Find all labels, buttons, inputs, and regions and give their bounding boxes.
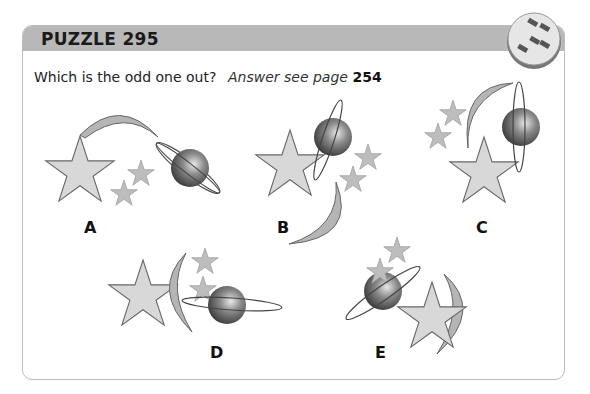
option-label-d[interactable]: D bbox=[210, 343, 223, 362]
option-b-figure[interactable] bbox=[256, 98, 382, 244]
puzzle-blocks-icon bbox=[507, 13, 561, 69]
option-d-figure[interactable] bbox=[109, 248, 283, 332]
option-e-figure[interactable] bbox=[342, 237, 466, 354]
option-a-figure[interactable] bbox=[46, 115, 225, 205]
option-c-figure[interactable] bbox=[425, 82, 540, 202]
option-label-a[interactable]: A bbox=[84, 218, 96, 237]
puzzle-art bbox=[0, 0, 590, 394]
option-label-e[interactable]: E bbox=[375, 343, 386, 362]
option-label-c[interactable]: C bbox=[476, 218, 488, 237]
option-label-b[interactable]: B bbox=[277, 218, 289, 237]
